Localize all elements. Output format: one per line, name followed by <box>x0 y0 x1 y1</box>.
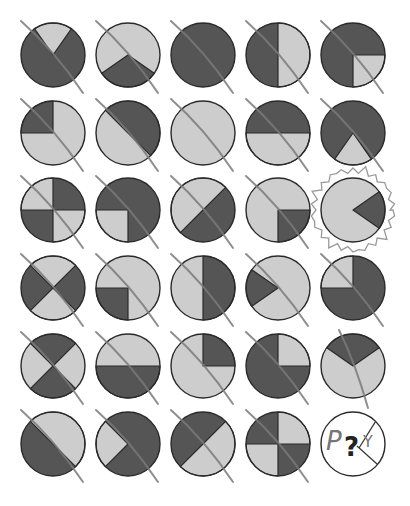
puzzle-cell <box>96 410 160 482</box>
puzzle-cell <box>96 332 160 404</box>
puzzle-cell <box>321 330 385 408</box>
puzzle-cell <box>96 254 160 326</box>
answer-cell[interactable]: P ? Y <box>321 412 385 476</box>
puzzle-cell <box>246 99 310 171</box>
puzzle-cell <box>21 176 85 248</box>
cell-wedge <box>278 23 310 87</box>
puzzle-cell <box>246 21 310 93</box>
puzzle-cell <box>246 332 310 404</box>
answer-letter-y: Y <box>362 432 373 451</box>
puzzle-cell <box>171 99 235 171</box>
puzzle-cell <box>321 254 385 326</box>
cells-layer <box>21 21 395 482</box>
puzzle-cell <box>96 21 160 93</box>
puzzle-cell <box>21 410 85 482</box>
cell-wedge <box>203 256 235 320</box>
puzzle-cell <box>321 21 385 93</box>
puzzle-cell <box>246 254 310 326</box>
puzzle-cell <box>96 99 160 171</box>
puzzle-cell <box>171 21 235 93</box>
puzzle-cell <box>171 254 235 326</box>
puzzle-cell <box>321 99 385 171</box>
puzzle-cell <box>246 176 310 248</box>
puzzle-cell <box>311 167 394 252</box>
puzzle-grid: P ? Y <box>0 0 410 506</box>
puzzle-cell <box>21 254 85 326</box>
answer-letter-p: P <box>326 426 342 456</box>
puzzle-cell <box>21 21 85 93</box>
puzzle-cell <box>171 176 235 248</box>
puzzle-cell <box>246 410 310 482</box>
puzzle-cell <box>21 332 85 404</box>
puzzle-cell <box>21 99 85 171</box>
puzzle-cell <box>171 332 235 404</box>
question-mark: ? <box>344 432 359 462</box>
puzzle-cell <box>96 176 160 248</box>
puzzle-cell <box>171 410 235 482</box>
